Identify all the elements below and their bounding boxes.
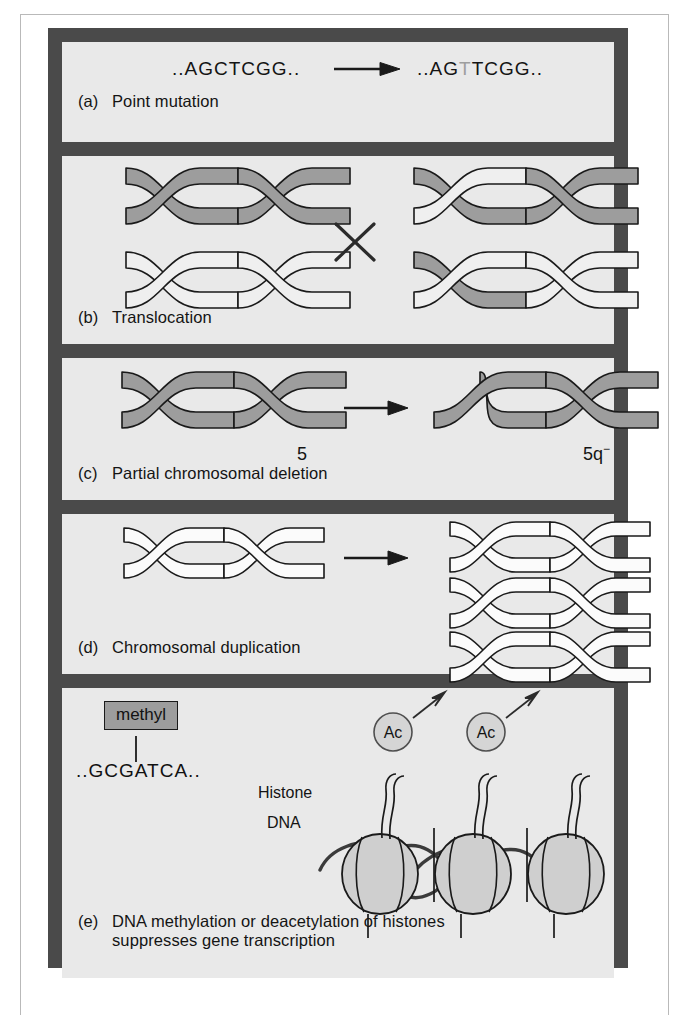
caption-b: (b)Translocation bbox=[78, 308, 212, 327]
acetyl-label-2: Ac bbox=[477, 724, 496, 741]
caption-tag-d: (d) bbox=[78, 638, 112, 657]
sequence-after-suffix: TCGG.. bbox=[472, 58, 543, 79]
histone-tail-2 bbox=[475, 774, 497, 839]
acetyl-group-2: Ac bbox=[467, 692, 538, 751]
caption-text-c: Partial chromosomal deletion bbox=[112, 464, 328, 482]
chromosome-copy-1 bbox=[450, 522, 650, 572]
figure-frame: ..AGCTCGG.. ..AGTTCGG.. (a)Point mutatio… bbox=[48, 28, 628, 968]
chromosome-dark-after bbox=[414, 168, 638, 224]
histone-tail-3 bbox=[568, 774, 590, 839]
nucleosome-2 bbox=[434, 774, 511, 938]
panel-translocation: (b)Translocation bbox=[62, 156, 614, 344]
caption-tag-c: (c) bbox=[78, 464, 112, 483]
caption-text-e-line1: DNA methylation or deacetylation of hist… bbox=[112, 912, 445, 930]
caption-tag-e: (e) bbox=[78, 912, 112, 931]
caption-tag-a: (a) bbox=[78, 92, 112, 111]
crossing-marker-icon bbox=[336, 224, 374, 260]
chromosome-5q-minus bbox=[434, 372, 658, 428]
caption-d: (d)Chromosomal duplication bbox=[78, 638, 300, 657]
chromosome-label-after-base: 5q bbox=[583, 444, 603, 464]
page-rule-left bbox=[20, 14, 21, 1015]
acetyl-group-1: Ac bbox=[374, 692, 445, 751]
chromosome-before bbox=[124, 528, 324, 578]
right-arrow-icon bbox=[344, 401, 408, 415]
chromosome-white-after bbox=[414, 252, 638, 308]
chromosome-5-normal bbox=[122, 372, 346, 428]
mutated-base: T bbox=[459, 58, 472, 79]
panel-point-mutation: ..AGCTCGG.. ..AGTTCGG.. (a)Point mutatio… bbox=[62, 42, 614, 142]
chromosome-dark-before bbox=[126, 168, 350, 224]
panel-chromosomal-duplication: (d)Chromosomal duplication bbox=[62, 514, 614, 674]
sequence-after: ..AGTTCGG.. bbox=[417, 58, 543, 80]
dna-label: DNA bbox=[267, 814, 301, 832]
chromosome-copy-2 bbox=[450, 578, 650, 628]
histone-label: Histone bbox=[258, 784, 312, 802]
panel-partial-deletion: 5 5q− (c)Partial chromosomal deletion bbox=[62, 358, 614, 500]
panel-epigenetics: methyl Ac Ac bbox=[62, 688, 614, 978]
caption-c: (c)Partial chromosomal deletion bbox=[78, 464, 328, 483]
right-arrow-icon bbox=[344, 551, 408, 565]
page-rule-right bbox=[668, 14, 669, 1015]
chromosome-copy-3 bbox=[450, 632, 650, 682]
acetyl-label-1: Ac bbox=[384, 724, 403, 741]
page-rule-top bbox=[20, 14, 668, 15]
right-arrow-icon bbox=[334, 63, 400, 76]
caption-tag-b: (b) bbox=[78, 308, 112, 327]
nucleosome-3 bbox=[527, 774, 604, 938]
caption-text-e-line2: suppresses gene transcription bbox=[112, 931, 445, 950]
chromosome-label-after-superscript: − bbox=[603, 442, 610, 456]
chromosome-label-after: 5q− bbox=[583, 442, 610, 464]
chromosome-label-before: 5 bbox=[297, 444, 307, 464]
histone-tail-1 bbox=[382, 774, 404, 839]
caption-text-b: Translocation bbox=[112, 308, 212, 326]
chromosome-white-before bbox=[126, 252, 350, 308]
caption-text-a: Point mutation bbox=[112, 92, 219, 110]
caption-text-d: Chromosomal duplication bbox=[112, 638, 300, 656]
caption-a: (a)Point mutation bbox=[78, 92, 219, 111]
methylated-sequence: ..GCGATCA.. bbox=[76, 760, 201, 782]
sequence-after-prefix: ..AG bbox=[417, 58, 459, 79]
caption-e: (e)DNA methylation or deacetylation of h… bbox=[78, 912, 445, 950]
